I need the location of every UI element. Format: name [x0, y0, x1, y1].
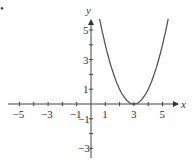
x-tick-label: 5 [160, 108, 166, 120]
x-tick-label: −3 [41, 108, 53, 120]
graph-canvas: • x y −5−3−1135531−1−3 [0, 0, 192, 164]
bullet: • [0, 2, 4, 14]
y-tick-label: 1 [83, 83, 89, 95]
y-axis-label: y [85, 4, 91, 16]
x-tick-label: 3 [131, 108, 137, 120]
parabola-graph: • x y −5−3−1135531−1−3 [0, 0, 192, 164]
x-axis-label: x [180, 98, 186, 110]
x-tick-label: −5 [13, 108, 25, 120]
y-tick-label: 5 [83, 24, 89, 36]
y-tick-label: −3 [78, 142, 90, 154]
y-tick-label: 3 [83, 54, 89, 66]
x-tick-label: 1 [102, 108, 108, 120]
parabola-curve [100, 19, 169, 104]
y-tick-label: −1 [78, 113, 90, 125]
